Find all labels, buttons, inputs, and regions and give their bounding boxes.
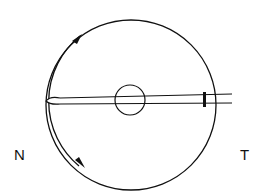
label-nasal: N: [14, 146, 25, 163]
center-circle: [115, 85, 145, 115]
globe-outline: [46, 20, 216, 190]
eye-diagram: [0, 0, 262, 195]
label-temporal: T: [240, 146, 249, 163]
instrument: [46, 92, 232, 107]
arrow-down-icon: [75, 157, 85, 168]
